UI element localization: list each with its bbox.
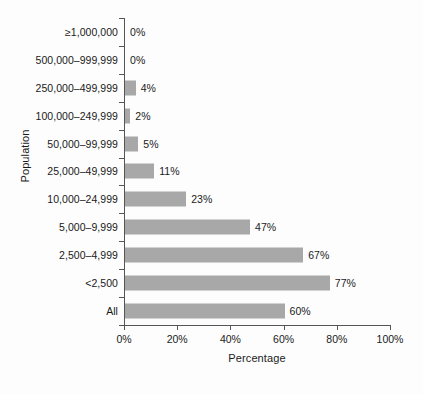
bar [125,164,154,179]
bar-value-label: 77% [335,277,356,289]
x-axis-tick-label: 60% [273,333,294,345]
bar-value-label: 67% [308,249,329,261]
bar-value-label: 2% [135,110,150,122]
bar-value-label: 0% [130,26,145,38]
x-axis-tick [337,325,338,330]
chart-row: ≥1,000,0000% [124,18,390,46]
bar [125,276,330,291]
x-axis-tick-label: 80% [326,333,347,345]
x-axis-tick-label: 20% [167,333,188,345]
category-label: 5,000–9,999 [59,221,118,233]
category-label: 10,000–24,999 [47,193,118,205]
chart-row: 50,000–99,9995% [124,130,390,158]
x-axis-tick-label: 40% [220,333,241,345]
x-axis-tick [177,325,178,330]
category-label: 25,000–49,999 [47,165,118,177]
category-label: 250,000–499,999 [36,82,119,94]
category-label: 100,000–249,999 [36,110,119,122]
bar [125,248,303,263]
x-axis-title: Percentage [124,352,390,364]
x-axis-tick-label: 100% [377,333,404,345]
bar-value-label: 4% [141,82,156,94]
chart-row: 10,000–24,99923% [124,185,390,213]
chart-row: <2,50077% [124,269,390,297]
category-label: 50,000–99,999 [47,138,118,150]
y-axis-title: Population [19,111,31,201]
bar [125,108,130,123]
chart-row: 500,000–999,9990% [124,46,390,74]
chart-row: 5,000–9,99947% [124,213,390,241]
plot-area: ≥1,000,0000%500,000–999,9990%250,000–499… [124,18,390,325]
category-label: 2,500–4,999 [59,249,118,261]
chart-row: 100,000–249,9992% [124,102,390,130]
chart-row: All60% [124,297,390,325]
category-label: All [106,305,118,317]
bar [125,80,136,95]
bar [125,220,250,235]
bar-value-label: 11% [159,165,179,177]
x-axis-tick-label: 0% [116,333,131,345]
chart-row: 25,000–49,99911% [124,158,390,186]
bar-value-label: 23% [191,193,212,205]
x-axis-tick [390,325,391,330]
bar-value-label: 0% [130,54,145,66]
category-label: ≥1,000,000 [65,26,118,38]
x-axis-tick [284,325,285,330]
bar [125,304,285,319]
x-axis-tick [124,325,125,330]
x-axis-tick [230,325,231,330]
chart-row: 250,000–499,9994% [124,74,390,102]
bar-value-label: 60% [290,305,311,317]
bar [125,192,186,207]
chart-row: 2,500–4,99967% [124,241,390,269]
bar [125,136,138,151]
category-label: 500,000–999,999 [36,54,119,66]
bar-value-label: 47% [255,221,276,233]
category-label: <2,500 [85,277,118,289]
bar-chart: Population ≥1,000,0000%500,000–999,9990%… [0,0,423,394]
y-axis-tick [119,18,124,19]
x-axis-line [124,325,391,326]
bar-value-label: 5% [143,138,158,150]
